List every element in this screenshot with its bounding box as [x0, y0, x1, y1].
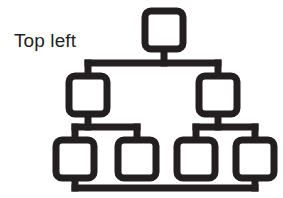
node-leaf-4 [236, 140, 274, 178]
node-root [145, 11, 183, 49]
node-mid-1 [69, 76, 107, 114]
connectors-group [75, 49, 255, 188]
node-leaf-2 [118, 140, 156, 178]
node-leaf-1 [56, 140, 94, 178]
diagram-canvas: Top left [0, 0, 283, 198]
node-mid-2 [199, 76, 237, 114]
hierarchy-tree-icon [0, 0, 283, 198]
node-leaf-3 [177, 140, 215, 178]
nodes-group [56, 11, 274, 178]
